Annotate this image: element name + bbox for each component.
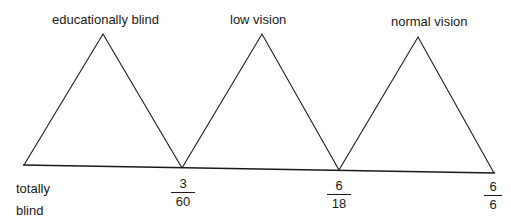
label-totally: totally xyxy=(16,182,50,195)
tick-denominator: 6 xyxy=(484,196,502,211)
label-low-vision: low vision xyxy=(230,13,286,26)
tick-numerator: 6 xyxy=(327,179,351,195)
label-normal-vision: normal vision xyxy=(391,15,468,28)
vision-scale-diagram xyxy=(0,0,511,221)
tick-6-6: 6 6 xyxy=(484,180,502,211)
tick-3-60: 3 60 xyxy=(171,177,195,208)
tick-denominator: 60 xyxy=(171,193,195,208)
tick-denominator: 18 xyxy=(327,195,351,210)
label-educationally-blind: educationally blind xyxy=(52,13,159,26)
tick-numerator: 3 xyxy=(171,177,195,193)
label-blind: blind xyxy=(16,204,43,217)
triangle-low-vision xyxy=(182,34,339,170)
triangle-educationally-blind xyxy=(24,34,182,168)
baseline-axis xyxy=(23,165,495,173)
tick-numerator: 6 xyxy=(484,180,502,196)
tick-6-18: 6 18 xyxy=(327,179,351,210)
triangle-normal-vision xyxy=(339,37,494,173)
